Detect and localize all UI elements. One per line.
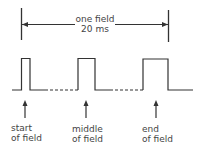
arrowhead-up-icon (84, 100, 89, 106)
field-label: one field (70, 14, 120, 24)
marker-label-line1: end (142, 124, 173, 134)
marker-label-line2: of field (142, 134, 173, 144)
marker-label-line1: middle (72, 124, 103, 134)
marker-label-line1: start (11, 123, 42, 133)
marker-label-end: end of field (142, 124, 173, 144)
arrowhead-up-icon (154, 100, 159, 106)
pulse-waveform-2 (78, 59, 110, 91)
arrowhead-left-icon (22, 22, 28, 27)
duration-label: 20 ms (70, 24, 120, 34)
marker-label-line2: of field (72, 134, 103, 144)
arrowhead-right-icon (162, 22, 168, 27)
field-duration-label: one field 20 ms (70, 14, 120, 34)
pulse-waveform-1 (12, 59, 45, 91)
marker-label-middle: middle of field (72, 124, 103, 144)
pulse-waveform-3 (143, 59, 193, 90)
marker-label-start: start of field (11, 123, 42, 143)
marker-label-line2: of field (11, 133, 42, 143)
arrowhead-up-icon (23, 100, 28, 106)
